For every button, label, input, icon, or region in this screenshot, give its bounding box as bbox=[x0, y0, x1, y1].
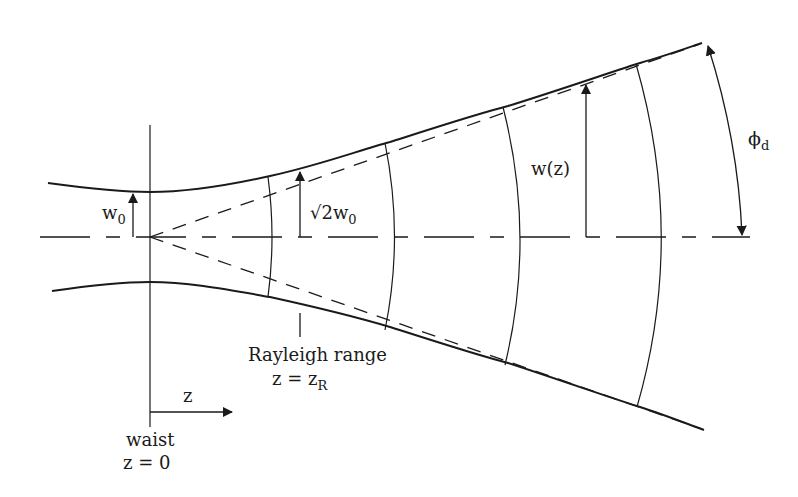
rayleigh-range-label: Rayleigh range bbox=[248, 344, 387, 365]
wavefront-2 bbox=[385, 143, 395, 330]
divergence-angle-arc bbox=[708, 46, 742, 235]
gaussian-beam-diagram: w0 √2w0 w(z) ϕd Rayleigh range z = zR z … bbox=[0, 0, 798, 497]
z-axis-label: z bbox=[183, 385, 192, 406]
asymptote-upper bbox=[150, 44, 700, 237]
wavefront-4 bbox=[636, 64, 661, 407]
rayleigh-range-equation: z = zR bbox=[272, 368, 329, 393]
w0-label: w0 bbox=[102, 202, 126, 227]
beam-envelope-upper bbox=[48, 43, 702, 192]
wz-label: w(z) bbox=[531, 158, 570, 179]
waist-label: waist bbox=[126, 429, 175, 450]
sqrt2-w0-label: √2w0 bbox=[310, 202, 357, 227]
asymptote-lower bbox=[150, 237, 702, 429]
wavefront-3 bbox=[503, 107, 520, 365]
waist-equation: z = 0 bbox=[123, 452, 170, 473]
divergence-angle-label: ϕd bbox=[748, 127, 769, 153]
